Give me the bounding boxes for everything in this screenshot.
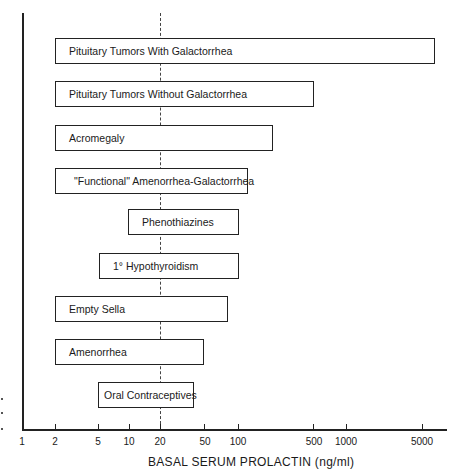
bar-label: Pituitary Tumors Without Galactorrhea xyxy=(69,88,247,100)
bar-label: 1° Hypothyroidism xyxy=(113,260,198,272)
x-tick xyxy=(422,424,423,430)
scan-mark xyxy=(1,428,3,430)
x-tick xyxy=(313,424,314,430)
x-tick xyxy=(98,424,99,430)
bar-label: Empty Sella xyxy=(69,303,125,315)
bar-label: Amenorrhea xyxy=(69,346,127,358)
bar-pituitary-without-galactorrhea: Pituitary Tumors Without Galactorrhea xyxy=(55,81,314,107)
bar-acromegaly: Acromegaly xyxy=(55,125,273,151)
x-tick xyxy=(204,424,205,430)
x-tick-label: 50 xyxy=(199,436,210,447)
bar-label: Pituitary Tumors With Galactorrhea xyxy=(69,45,232,57)
x-tick xyxy=(160,424,161,430)
x-axis-title: BASAL SERUM PROLACTIN (ng/ml) xyxy=(148,455,354,469)
bar-hypothyroidism: 1° Hypothyroidism xyxy=(99,253,239,279)
x-tick-label: 5 xyxy=(95,436,101,447)
x-tick xyxy=(129,424,130,430)
prolactin-range-chart: Pituitary Tumors With Galactorrhea Pitui… xyxy=(0,0,453,473)
x-tick-label: 20 xyxy=(154,436,165,447)
bar-label: Oral Contraceptives xyxy=(104,389,197,401)
bar-phenothiazines: Phenothiazines xyxy=(128,209,239,235)
scan-mark xyxy=(1,398,3,400)
y-axis xyxy=(22,13,24,429)
x-tick-label: 1 xyxy=(19,436,25,447)
scan-mark xyxy=(1,412,3,414)
x-tick-label: 100 xyxy=(230,436,247,447)
bar-functional-amenorrhea-galactorrhea: "Functional" Amenorrhea-Galactorrhea xyxy=(55,168,248,194)
x-tick-label: 500 xyxy=(306,436,323,447)
bar-amenorrhea: Amenorrhea xyxy=(55,339,204,365)
x-axis xyxy=(22,429,447,431)
x-tick xyxy=(55,424,56,430)
bar-label: "Functional" Amenorrhea-Galactorrhea xyxy=(74,175,254,187)
x-tick xyxy=(238,424,239,430)
x-tick-label: 5000 xyxy=(411,436,433,447)
x-tick-label: 1000 xyxy=(335,436,357,447)
bar-empty-sella: Empty Sella xyxy=(55,296,228,322)
bar-oral-contraceptives: Oral Contraceptives xyxy=(98,382,194,408)
x-tick-label: 10 xyxy=(123,436,134,447)
x-tick xyxy=(346,424,347,430)
bar-label: Phenothiazines xyxy=(142,216,214,228)
x-tick-label: 2 xyxy=(52,436,58,447)
bar-pituitary-with-galactorrhea: Pituitary Tumors With Galactorrhea xyxy=(55,38,435,64)
bar-label: Acromegaly xyxy=(69,132,124,144)
